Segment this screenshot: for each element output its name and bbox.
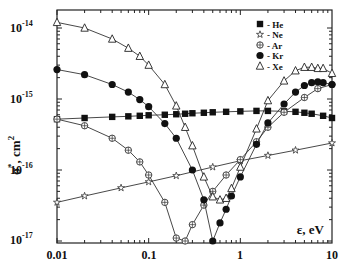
- legend-item-ne: - Ne: [256, 30, 282, 40]
- x-axis-label: ε, eV: [297, 222, 325, 237]
- y-tick-1e-14: 10-14: [10, 19, 33, 35]
- svg-text:- He: - He: [267, 20, 283, 30]
- legend-item-kr: - Kr: [256, 51, 283, 61]
- svg-text:- Kr: - Kr: [267, 51, 283, 61]
- x-tick-0.01: 0.01: [47, 248, 68, 262]
- y-tick-1e-17: 10-17: [10, 231, 33, 247]
- legend: - He- Ne- Ar- Kr- Xe: [256, 20, 283, 72]
- y-tick-1e-15: 10-15: [10, 90, 33, 106]
- plot-frame: [57, 10, 332, 243]
- series-layer: [53, 18, 335, 244]
- legend-item-ar: - Ar: [257, 41, 282, 51]
- series-he: [54, 108, 335, 123]
- svg-text:- Ne: - Ne: [267, 30, 283, 40]
- y-axis-label: σ*, cm2: [6, 135, 23, 175]
- cross-section-chart: 10-14 10-15 10-16 10-17 0.01 0.1 1 10 ε,…: [0, 0, 348, 266]
- svg-text:σ*, cm2: σ*, cm2: [6, 135, 23, 175]
- svg-text:- Xe: - Xe: [267, 62, 283, 72]
- x-tick-0.1: 0.1: [142, 248, 157, 262]
- svg-text:- Ar: - Ar: [267, 41, 282, 51]
- series-kr: [53, 66, 335, 245]
- series-ar: [54, 81, 335, 244]
- legend-item-xe: - Xe: [256, 62, 282, 72]
- legend-item-he: - He: [257, 20, 283, 30]
- x-tick-labels: 0.01 0.1 1 10: [47, 248, 339, 262]
- y-tick-labels: 10-14 10-15 10-16 10-17: [10, 19, 33, 247]
- x-tick-10: 10: [326, 248, 338, 262]
- x-tick-1: 1: [237, 248, 243, 262]
